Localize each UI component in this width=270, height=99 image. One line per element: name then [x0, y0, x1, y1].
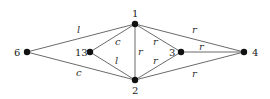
- edge-label-2-3: r: [153, 55, 159, 66]
- node-label-6: 6: [14, 47, 20, 58]
- edge-label-6-2: c: [76, 67, 82, 78]
- node-3: [178, 49, 184, 55]
- edge-1-4: [135, 24, 244, 52]
- node-label-4: 4: [252, 47, 258, 58]
- node-label-3: 3: [169, 47, 175, 58]
- node-1: [132, 21, 138, 27]
- node-2: [132, 77, 138, 83]
- node-label-1: 1: [132, 8, 138, 19]
- edge-label-13-2: l: [115, 55, 118, 66]
- edge-label-3-4: r: [199, 41, 205, 52]
- edge-label-1-2: r: [138, 46, 144, 57]
- node-label-2: 2: [132, 85, 138, 96]
- graph-diagram: lcclrrrrrr 6131234: [0, 0, 270, 99]
- node-13: [87, 49, 93, 55]
- node-6: [24, 49, 30, 55]
- edge-2-4: [135, 52, 244, 80]
- node-4: [241, 49, 247, 55]
- node-label-13: 13: [75, 47, 88, 58]
- edge-label-13-1: c: [115, 36, 121, 47]
- edge-label-6-1: l: [77, 24, 80, 35]
- edge-label-1-4: r: [192, 24, 198, 35]
- edges-layer: [27, 24, 244, 80]
- edge-13-1: [90, 24, 135, 52]
- edge-13-2: [90, 52, 135, 80]
- edge-label-2-4: r: [192, 68, 198, 79]
